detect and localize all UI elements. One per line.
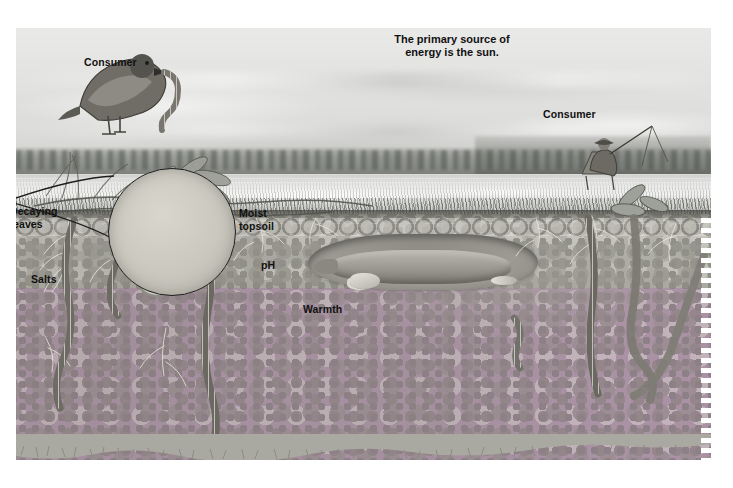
label-decaying-leaves: Decaying leaves <box>16 205 58 230</box>
label-ph: pH <box>261 259 275 272</box>
bird-tail <box>58 106 80 120</box>
bird-eye <box>145 61 149 65</box>
label-consumer-bird: Consumer <box>84 56 137 69</box>
right-broadleaf-plant <box>610 181 670 218</box>
figure-page: The primary source of energy is the sun.… <box>0 0 733 488</box>
chair-legs <box>586 176 614 190</box>
ragged-right-edge <box>701 218 711 460</box>
earthworm <box>588 218 598 394</box>
illustration-plate: The primary source of energy is the sun.… <box>16 28 711 460</box>
label-salts: Salts <box>31 273 57 286</box>
earthworm-burrow <box>634 256 704 396</box>
magnifier-circle <box>108 168 236 296</box>
label-moist-topsoil: Moist topsoil <box>239 207 274 232</box>
label-warmth: Warmth <box>303 303 342 316</box>
angler-hat <box>594 140 614 145</box>
earthworm-burrow <box>631 218 653 400</box>
energy-source-note: The primary source of energy is the sun. <box>372 33 532 59</box>
angler <box>582 126 668 190</box>
earthworm <box>56 220 74 408</box>
earthworm <box>514 318 520 368</box>
fishing-line <box>642 126 668 166</box>
label-consumer-angler: Consumer <box>543 108 596 121</box>
